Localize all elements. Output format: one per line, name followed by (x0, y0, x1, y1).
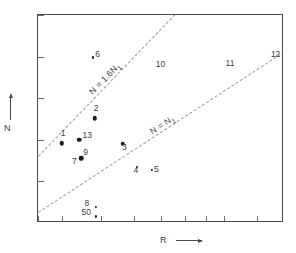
x-tick-mark (257, 216, 258, 221)
data-point-label: 13 (82, 131, 91, 140)
data-point-label: 12 (271, 50, 280, 59)
reference-line-label: N = 1.6N1 (87, 61, 123, 98)
x-tick-mark (134, 216, 135, 221)
data-point-label: 10 (156, 60, 165, 69)
x-tick-mark (62, 216, 63, 221)
arrow-right-icon (176, 240, 202, 241)
chart-figure: 101520253035 3.5456789101214 N = 1.6N1N … (0, 0, 296, 253)
x-tick-mark (206, 216, 207, 221)
y-tick-mark (38, 15, 44, 16)
plot-area: 101520253035 3.5456789101214 N = 1.6N1N … (37, 14, 283, 222)
y-tick-mark (38, 57, 44, 58)
x-tick-mark (161, 216, 162, 221)
x-tick-mark (38, 216, 39, 221)
data-point-label: 1 (61, 129, 66, 138)
data-point (151, 169, 153, 171)
reference-line-label: N = N1 (148, 113, 177, 138)
arrow-up-icon (10, 98, 11, 120)
data-point (77, 138, 82, 143)
x-axis-title: R (160, 235, 167, 245)
data-point-label: 9 (83, 148, 88, 157)
data-point (59, 141, 64, 146)
data-point-label: 6 (95, 50, 100, 59)
data-point-label: 5 (154, 165, 159, 174)
data-point (94, 215, 96, 217)
y-axis-title: N (4, 123, 11, 133)
data-point-label: 50 (82, 208, 91, 217)
data-point-label: 4 (134, 166, 139, 175)
x-tick-mark (224, 216, 225, 221)
data-point-label: 11 (226, 59, 235, 68)
x-tick-mark (185, 216, 186, 221)
data-point-label: 3 (122, 143, 127, 152)
data-point (92, 56, 94, 58)
data-point-label: 7 (72, 157, 77, 166)
y-tick-mark (38, 140, 44, 141)
data-point (94, 206, 96, 208)
y-tick-mark (38, 181, 44, 182)
y-tick-mark (38, 98, 44, 99)
x-tick-mark (101, 216, 102, 221)
data-point-label: 2 (94, 104, 99, 113)
data-point (93, 116, 98, 121)
